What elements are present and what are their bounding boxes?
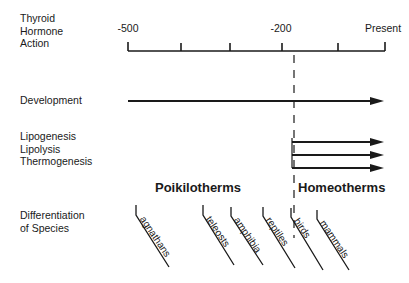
arrowheads	[370, 97, 384, 172]
arrowhead-icon	[370, 164, 384, 172]
arrowhead-icon	[370, 97, 384, 105]
arrowhead-icon	[370, 151, 384, 159]
diagram-lines	[0, 0, 409, 283]
arrowhead-icon	[370, 138, 384, 146]
